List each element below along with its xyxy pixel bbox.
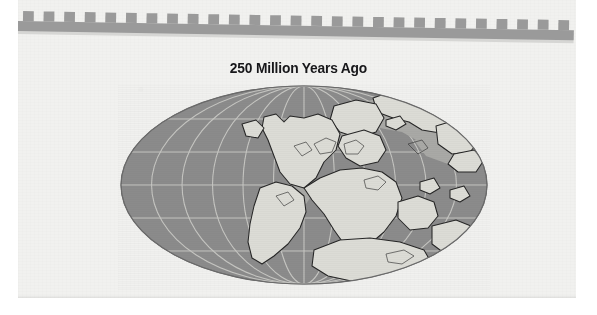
crenellation-tooth bbox=[455, 18, 466, 28]
crenellation-tooth bbox=[249, 15, 260, 25]
crenellation-tooth bbox=[517, 19, 528, 29]
world-map-globe bbox=[118, 84, 490, 290]
crenellation-tooth bbox=[538, 20, 549, 30]
crenellation-tooth bbox=[126, 13, 137, 23]
globe-svg bbox=[118, 84, 490, 290]
crenellation-tooth bbox=[352, 17, 363, 27]
crenellation-tooth bbox=[208, 14, 219, 24]
crenellation-tooth bbox=[85, 12, 96, 22]
crenellation-tooth bbox=[23, 11, 34, 21]
crenellation-tooth bbox=[270, 15, 281, 25]
crenellation-tooth bbox=[332, 16, 343, 26]
crenellation-tooth bbox=[44, 11, 55, 21]
paper-bottom-edge bbox=[18, 295, 576, 298]
crenellation-tooth bbox=[311, 16, 322, 26]
crenellation-tooth bbox=[476, 19, 487, 29]
crenellation-tooth bbox=[373, 17, 384, 27]
page-title: 250 Million Years Ago bbox=[24, 59, 573, 76]
crenellation-tooth bbox=[394, 17, 405, 27]
crenellation-tooth bbox=[105, 12, 116, 22]
crenellation-tooth bbox=[291, 16, 302, 26]
crenellation-tooth bbox=[188, 14, 199, 24]
crenellation-tooth bbox=[435, 18, 446, 28]
crenellation-tooth bbox=[497, 19, 508, 29]
crenellation-tooth bbox=[167, 13, 178, 23]
crenellation-tooth bbox=[414, 18, 425, 28]
crenellation-tooth bbox=[64, 12, 75, 22]
crenellation-tooth bbox=[558, 20, 569, 30]
crenellation-tooth bbox=[229, 14, 240, 24]
paleogeographic-map-figure: 250 Million Years Ago bbox=[0, 0, 597, 315]
crenellation-tooth bbox=[146, 13, 157, 23]
